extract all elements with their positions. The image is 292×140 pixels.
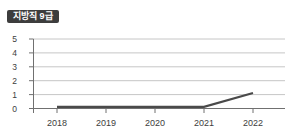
x-tick-label: 2021 [194,118,214,128]
y-tick-label: 4 [12,48,17,58]
line-chart: 01234520182019202020212022 [0,0,292,140]
y-tick-label: 0 [12,104,17,114]
x-tick-label: 2020 [145,118,165,128]
x-tick-label: 2022 [243,118,263,128]
y-tick-label: 5 [12,34,17,44]
x-tick-label: 2018 [47,118,67,128]
y-tick-label: 2 [12,76,17,86]
y-tick-label: 1 [12,90,17,100]
y-tick-label: 3 [12,62,17,72]
chart-panel: 지방직 9급 01234520182019202020212022 [0,0,292,140]
x-tick-label: 2019 [96,118,116,128]
